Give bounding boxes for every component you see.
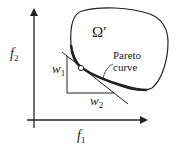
w1-label: w1 [52, 61, 65, 78]
pareto-leader-line [103, 64, 113, 79]
w2-label: w2 [90, 93, 103, 110]
pareto-label-line2: curve [113, 61, 138, 73]
pareto-label-line1: Pareto [113, 49, 142, 61]
region-label: Ω′ [92, 24, 106, 40]
pareto-diagram: Ω′ Pareto curve f2 f1 w1 w2 [0, 0, 193, 146]
tangent-point [78, 65, 83, 70]
x-axis-label: f1 [77, 128, 85, 145]
y-axis-label: f2 [10, 46, 18, 63]
